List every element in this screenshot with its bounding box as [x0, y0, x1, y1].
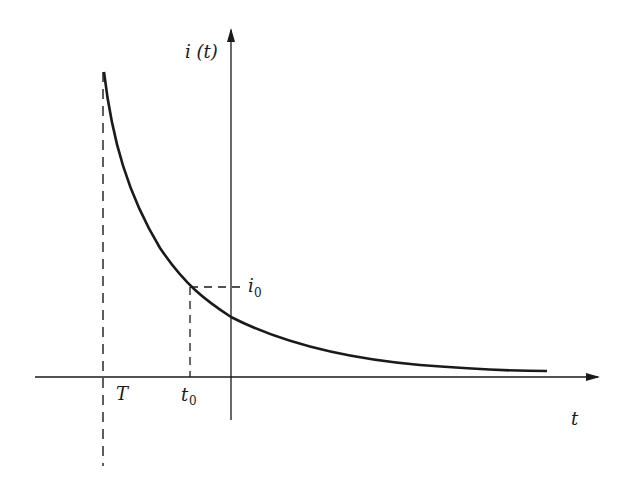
svg-text:0: 0 [254, 286, 262, 300]
diagram-canvas: i (t) t T t 0 i 0 [0, 0, 629, 484]
svg-text:i: i [248, 275, 254, 296]
y-axis-label: i (t) [185, 41, 218, 62]
svg-text:t: t [181, 384, 189, 405]
decay-curve [104, 72, 547, 371]
i0-label: i 0 [248, 275, 262, 300]
svg-text:0: 0 [189, 394, 197, 408]
asymptote-label: T [116, 383, 130, 404]
t0-label: t 0 [181, 384, 197, 408]
x-axis-label: t [571, 408, 579, 429]
